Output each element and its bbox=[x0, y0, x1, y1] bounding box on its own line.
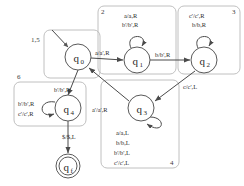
self-loop-q1-label-1: a/a,R bbox=[124, 12, 138, 19]
self-loop-q4-label-1: b'/b',R bbox=[18, 100, 35, 107]
edge-label-q3-q0: a'/a',R bbox=[92, 106, 108, 113]
state-q4-label: q bbox=[64, 103, 70, 115]
self-loop-q3-label-1: a/a,L bbox=[116, 129, 129, 136]
state-q1[interactable]: q 1 bbox=[124, 47, 150, 73]
state-q3[interactable]: q 3 bbox=[128, 95, 154, 121]
self-loop-q2-label-2: b/b,R bbox=[192, 21, 207, 28]
state-q1-label: q bbox=[133, 55, 139, 67]
state-qf[interactable]: q f bbox=[56, 154, 80, 178]
region-number-3: 3 bbox=[232, 8, 236, 16]
state-q4-subscript: 4 bbox=[71, 109, 75, 117]
state-q0-label: q bbox=[74, 52, 80, 64]
edge-q3-q0 bbox=[89, 68, 129, 101]
self-loop-q4-label-2: c'/c',R bbox=[18, 110, 34, 117]
start-arrow bbox=[52, 30, 68, 47]
state-q1-subscript: 1 bbox=[140, 61, 144, 69]
state-diagram-canvas: q 0 q 1 q 2 q 3 bbox=[0, 0, 244, 186]
edge-label-q2-q3: c/c',L bbox=[183, 83, 197, 90]
region-number-2: 2 bbox=[101, 8, 105, 16]
edge-q0-q1 bbox=[91, 58, 123, 60]
state-qf-label: q bbox=[64, 161, 70, 173]
state-q0[interactable]: q 0 bbox=[65, 44, 91, 70]
region-number-1-5: 1,5 bbox=[31, 36, 40, 44]
state-diagram-svg: q 0 q 1 q 2 q 3 bbox=[0, 0, 244, 186]
self-loop-q1-label-2: b'/b',R bbox=[122, 21, 139, 28]
region-number-6: 6 bbox=[17, 73, 21, 81]
self-loop-q3-label-3: b'/b',L bbox=[114, 149, 130, 156]
self-loop-q3-label-2: b/b,L bbox=[116, 139, 130, 146]
edge-label-q1-q2: b/b',R bbox=[155, 51, 171, 58]
state-q2-label: q bbox=[200, 55, 206, 67]
region-number-4: 4 bbox=[170, 159, 174, 167]
region-box-4 bbox=[101, 80, 179, 168]
state-q3-label: q bbox=[137, 103, 143, 115]
self-loop-q4 bbox=[42, 102, 55, 115]
state-q0-subscript: 0 bbox=[81, 58, 85, 66]
states: q 0 q 1 q 2 q 3 bbox=[55, 44, 217, 178]
edge-label-q0-q4: b'/b',R bbox=[54, 86, 71, 93]
self-loop-q1 bbox=[130, 36, 144, 48]
state-q2-subscript: 2 bbox=[207, 61, 211, 69]
edge-label-q4-qf: $/$,L bbox=[62, 133, 76, 140]
edge-label-q0-q1: a/a',R bbox=[95, 49, 110, 56]
state-q2[interactable]: q 2 bbox=[191, 47, 217, 73]
state-q3-subscript: 3 bbox=[144, 109, 148, 117]
self-loop-q3-label-4: c'/c',L bbox=[114, 159, 129, 166]
self-loop-q2 bbox=[197, 36, 211, 48]
self-loop-q2-label-1: c'/c',R bbox=[189, 12, 205, 19]
state-q4[interactable]: q 4 bbox=[55, 95, 81, 121]
